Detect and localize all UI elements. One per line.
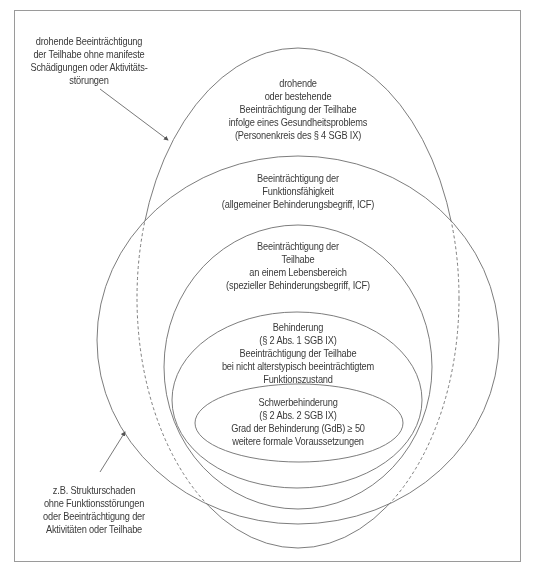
label-line: (§ 2 Abs. 1 SGB IX) (192, 334, 403, 347)
label-line: Behinderung (192, 321, 403, 334)
label-line: (§ 2 Abs. 2 SGB IX) (210, 409, 386, 422)
label-line: Beeinträchtigung der Teilhabe (210, 103, 386, 116)
label-line: Beeinträchtigung der (201, 240, 395, 253)
label-line: Funktionszustand (192, 373, 403, 386)
label-line: an einem Lebensbereich (201, 266, 395, 279)
annotation-line: störungen (23, 74, 155, 87)
behinderung-label: Behinderung (§ 2 Abs. 1 SGB IX) Beeinträ… (192, 321, 403, 386)
funktionsfaehigkeit-label: Beeinträchtigung der Funktionsfähigkeit … (192, 172, 403, 211)
label-line: (Personenkreis des § 4 SGB IX) (210, 129, 386, 142)
label-line: bei nicht alterstypisch beeinträchtigtem (192, 360, 403, 373)
label-line: infolge eines Gesundheitsproblems (210, 116, 386, 129)
personenkreis-label: drohende oder bestehende Beeinträchtigun… (210, 77, 386, 142)
label-line: Beeinträchtigung der (192, 172, 403, 185)
label-line: drohende (210, 77, 386, 90)
label-line: Beeinträchtigung der Teilhabe (192, 347, 403, 360)
label-line: Teilhabe (201, 253, 395, 266)
annotation-line: oder Beeinträchtigung der (32, 510, 155, 523)
annotation-line: z.B. Strukturschaden (32, 484, 155, 497)
label-line: Schwerbehinderung (210, 396, 386, 409)
top-annotation-arrow (100, 89, 168, 140)
annotation-bottom-left: z.B. Strukturschaden ohne Funktionsstöru… (32, 484, 155, 536)
teilhabe-label: Beeinträchtigung der Teilhabe an einem L… (201, 240, 395, 292)
annotation-line: Aktivitäten oder Teilhabe (32, 523, 155, 536)
label-line: Grad der Behinderung (GdB) ≥ 50 (210, 422, 386, 435)
label-line: weitere formale Voraussetzungen (210, 435, 386, 448)
label-line: (spezieller Behinderungsbegriff, ICF) (201, 279, 395, 292)
bottom-annotation-arrow (100, 432, 125, 472)
annotation-line: ohne Funktionsstörungen (32, 497, 155, 510)
annotation-line: Schädigungen oder Aktivitäts- (23, 61, 155, 74)
annotation-line: drohende Beeinträchtigung (23, 35, 155, 48)
annotation-line: der Teilhabe ohne manifeste (23, 48, 155, 61)
annotation-top-left: drohende Beeinträchtigung der Teilhabe o… (23, 35, 155, 87)
schwerbehinderung-label: Schwerbehinderung (§ 2 Abs. 2 SGB IX) Gr… (210, 396, 386, 448)
label-line: (allgemeiner Behinderungsbegriff, ICF) (192, 198, 403, 211)
label-line: oder bestehende (210, 90, 386, 103)
label-line: Funktionsfähigkeit (192, 185, 403, 198)
